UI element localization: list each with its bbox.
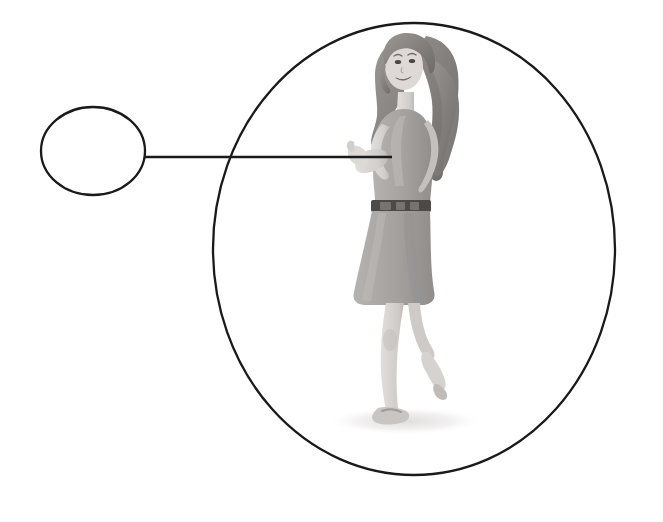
leg-standing	[381, 303, 404, 410]
belt-buckle	[380, 202, 391, 210]
thumb	[347, 141, 355, 152]
eye-left-icon	[395, 60, 401, 64]
callout-circle[interactable]	[41, 107, 145, 195]
callout-diagram	[0, 0, 663, 522]
leg-raised-thigh	[408, 303, 435, 361]
belt-stud-1	[396, 202, 405, 210]
eye-right-icon	[409, 59, 415, 63]
belt-stud-2	[410, 202, 419, 210]
diagram-canvas	[0, 0, 663, 522]
knee-shading	[383, 329, 397, 351]
woman-figure	[347, 33, 459, 425]
